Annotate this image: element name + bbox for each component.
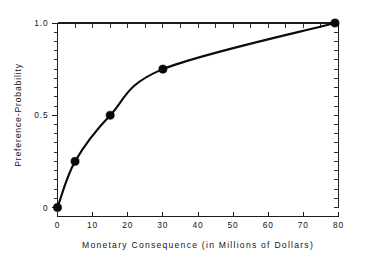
x-axis: 01020304050607080 xyxy=(55,212,344,230)
x-tick-label: 80 xyxy=(333,220,344,230)
y-axis-title: Preference-Probability xyxy=(13,63,23,167)
data-point-marker xyxy=(159,65,167,73)
x-tick-label: 50 xyxy=(228,220,239,230)
y-axis-ticks xyxy=(52,23,58,208)
chart-figure: 01020304050607080 00.51.0 Monetary Conse… xyxy=(0,0,367,265)
y-axis: 00.51.0 xyxy=(34,18,57,213)
chart-canvas: 01020304050607080 00.51.0 Monetary Conse… xyxy=(0,0,367,265)
data-point-marker xyxy=(53,203,61,211)
y-tick-label: 1.0 xyxy=(34,18,48,28)
data-point-markers xyxy=(53,19,339,212)
y-tick-label: 0.5 xyxy=(34,110,48,120)
data-point-marker xyxy=(106,111,114,119)
utility-curve xyxy=(58,23,335,208)
y-tick-label: 0 xyxy=(43,203,49,213)
x-axis-ticks xyxy=(58,212,339,217)
x-tick-label: 40 xyxy=(192,220,203,230)
x-axis-title: Monetary Consequence (in Millions of Dol… xyxy=(82,240,314,250)
plot-frame xyxy=(58,23,339,208)
y-axis-tick-labels: 00.51.0 xyxy=(34,18,48,213)
data-point-marker xyxy=(331,19,339,27)
x-tick-label: 20 xyxy=(122,220,133,230)
right-axis-minor-ticks xyxy=(334,23,339,208)
x-axis-tick-labels: 01020304050607080 xyxy=(55,220,344,230)
top-axis-minor-ticks xyxy=(58,23,339,28)
x-tick-label: 30 xyxy=(157,220,168,230)
x-tick-label: 0 xyxy=(55,220,61,230)
x-tick-label: 70 xyxy=(298,220,309,230)
x-tick-label: 60 xyxy=(263,220,274,230)
x-tick-label: 10 xyxy=(87,220,98,230)
data-point-marker xyxy=(71,157,79,165)
